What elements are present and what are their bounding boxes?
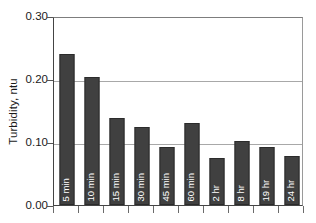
bar-slot: 60 min [179,18,204,205]
bar[interactable]: 24 hr [284,156,299,205]
y-axis-tick-mark [47,143,53,144]
y-axis-tick-mark [47,206,53,207]
x-axis-tick-mark [103,206,104,213]
bar-slot: 2 hr [204,18,229,205]
x-axis-tick-mark [253,206,254,213]
bar[interactable]: 60 min [184,123,199,205]
bar-slot: 19 hr [254,18,279,205]
x-axis-tick-mark [128,206,129,213]
y-axis-tick-mark [47,17,53,18]
x-axis-tick-mark [228,206,229,213]
x-axis-tick-mark [278,206,279,213]
y-axis-tick-labels: 0.000.100.200.30 [10,0,48,223]
plot-area: 5 min10 min15 min30 min45 min60 min2 hr8… [53,17,303,206]
bar[interactable]: 15 min [109,118,124,205]
bar[interactable]: 30 min [134,127,149,205]
bar[interactable]: 8 hr [234,141,249,205]
bar-slot: 10 min [79,18,104,205]
y-axis-tick-label: 0.10 [14,137,48,149]
x-axis-tick-mark [78,206,79,213]
bar-category-label: 60 min [186,172,196,201]
bar[interactable]: 45 min [159,147,174,205]
y-axis-tick-label: 0.20 [14,74,48,86]
bar-category-label: 24 hr [286,179,296,201]
bar[interactable]: 5 min [59,54,74,205]
x-axis-tick-mark [153,206,154,213]
bar[interactable]: 10 min [84,77,99,205]
x-axis-tick-mark [203,206,204,213]
y-axis-tick-label: 0.00 [14,200,48,212]
bar-slot: 15 min [104,18,129,205]
y-axis-tick-mark [47,80,53,81]
bar-slot: 24 hr [279,18,304,205]
turbidity-bar-chart-figure: Turbidity, ntu 0.000.100.200.30 5 min10 … [0,0,316,223]
bar-category-label: 10 min [86,172,96,201]
bar-series: 5 min10 min15 min30 min45 min60 min2 hr8… [54,18,302,205]
bar-slot: 45 min [154,18,179,205]
bar-category-label: 5 min [61,178,70,201]
bar-category-label: 2 hr [211,185,221,201]
bar[interactable]: 2 hr [209,158,224,205]
x-axis-tick-mark [303,206,304,213]
bar-category-label: 19 hr [261,179,271,201]
bar-slot: 8 hr [229,18,254,205]
bar-category-label: 30 min [136,172,146,201]
bar-category-label: 8 hr [236,185,246,201]
y-axis-tick-label: 0.30 [14,11,48,23]
bar[interactable]: 19 hr [259,147,274,205]
bar-category-label: 45 min [161,172,171,201]
x-axis-tick-mark [178,206,179,213]
bar-slot: 30 min [129,18,154,205]
bar-category-label: 15 min [111,172,121,201]
x-axis-tick-mark [53,206,54,213]
bar-slot: 5 min [54,18,79,205]
